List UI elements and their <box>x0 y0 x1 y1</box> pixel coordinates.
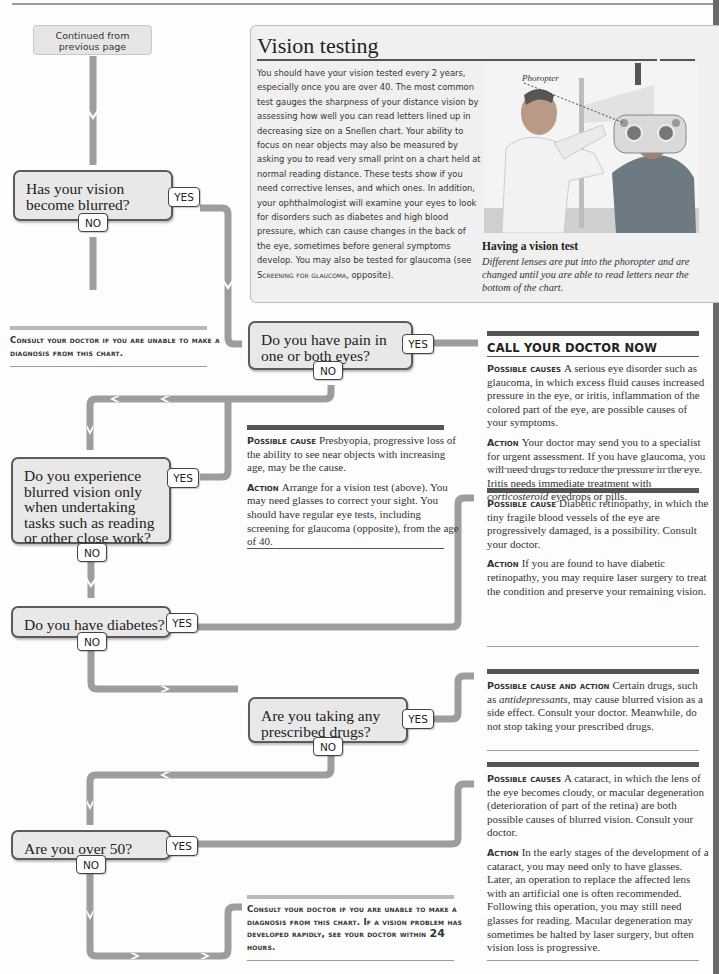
action-text: In the early stages of the development o… <box>487 846 709 953</box>
vision-test-photo <box>484 63 699 233</box>
yes-tag[interactable]: YES <box>402 334 434 354</box>
possible-causes-label: Possible causes <box>487 363 561 374</box>
yes-tag[interactable]: YES <box>402 709 434 729</box>
cross-reference: Screening for glaucoma <box>257 270 346 280</box>
answer-rule <box>487 468 699 469</box>
vision-testing-body: You should have your vision tested every… <box>257 66 482 282</box>
answer-prescribed-drugs: Possible cause and actionCertain drugs, … <box>487 679 709 739</box>
possible-causes-label: Possible causes <box>487 773 561 784</box>
action-label: Action <box>487 558 519 569</box>
answer-rule <box>247 548 444 549</box>
heading-rule <box>487 356 699 357</box>
no-tag[interactable]: NO <box>77 632 107 651</box>
answer-bar <box>487 331 699 336</box>
title-rule-right <box>660 59 695 61</box>
consult-doctor-note: Consult your doctor if you are unable to… <box>10 334 225 359</box>
no-tag[interactable]: NO <box>313 361 343 380</box>
answer-rule <box>487 646 699 647</box>
no-tag[interactable]: NO <box>76 855 106 874</box>
consult-doctor-urgent-note: Consult your doctor if you are unable to… <box>247 903 475 953</box>
answer-rule <box>487 750 699 751</box>
action-label: Action <box>487 437 519 448</box>
answer-rule <box>487 960 699 961</box>
answer-bar <box>487 669 699 674</box>
yes-tag[interactable]: YES <box>166 613 198 633</box>
question-text: Has your vision become blurred? <box>26 180 130 213</box>
answer-close-work: Possible causePresbyopia, progressive lo… <box>247 434 462 555</box>
no-tag[interactable]: NO <box>78 213 108 232</box>
answer-bar <box>487 488 699 493</box>
question-text: Do you experience blurred vision only wh… <box>24 467 154 546</box>
drug-name: antidepressants <box>499 693 568 705</box>
answer-bar <box>247 425 444 430</box>
question-text: Do you have diabetes? <box>24 616 165 633</box>
action-text: Your doctor may send you to a specialist… <box>487 436 705 489</box>
phoropter-illustration <box>484 63 699 233</box>
caption-title: Having a vision test <box>482 240 578 252</box>
action-text: If you are found to have diabetic retino… <box>487 557 707 596</box>
vision-testing-title: Vision testing <box>257 33 379 59</box>
phoropter-label: Phoropter <box>522 73 559 83</box>
caption-body: Different lenses are put into the phorop… <box>482 255 707 294</box>
consult-bar <box>247 895 454 899</box>
no-tag[interactable]: NO <box>313 737 343 756</box>
consult-rule <box>247 960 454 961</box>
yes-tag[interactable]: YES <box>167 468 199 488</box>
question-text: Are you taking any prescribed drugs? <box>261 707 380 740</box>
consult-rule <box>10 366 207 367</box>
action-label: Action <box>247 482 279 493</box>
hours-number: 24 <box>430 927 446 940</box>
title-rule <box>257 59 657 61</box>
continued-from-previous-page: Continued from previous page <box>33 25 152 55</box>
answer-diabetes: Possible causeDiabetic retinopathy, in w… <box>487 497 709 604</box>
possible-cause-label: Possible cause <box>487 498 556 509</box>
answer-over-50: Possible causesA cataract, in which the … <box>487 772 709 961</box>
body-text-end: , opposite). <box>346 270 393 280</box>
consult-bar <box>10 326 207 330</box>
yes-tag[interactable]: YES <box>168 187 200 207</box>
consult-text-end: hours. <box>247 942 275 952</box>
no-tag[interactable]: NO <box>77 543 107 562</box>
yes-tag[interactable]: YES <box>166 836 198 856</box>
answer-bar <box>487 762 699 767</box>
question-text: Do you have pain in one or both eyes? <box>261 331 387 364</box>
body-text: You should have your vision tested every… <box>257 68 481 265</box>
cause-and-action-label: Possible cause and action <box>487 680 609 691</box>
call-doctor-now-heading: CALL YOUR DOCTOR NOW <box>487 341 657 355</box>
action-label: Action <box>487 847 519 858</box>
possible-cause-label: Possible cause <box>247 435 316 446</box>
top-rule <box>12 3 719 5</box>
question-close-work: Do you experience blurred vision only wh… <box>11 457 171 544</box>
